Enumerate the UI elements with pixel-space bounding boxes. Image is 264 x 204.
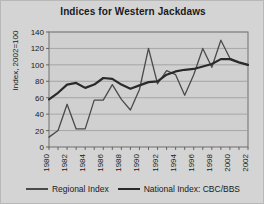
- legend-item-regional: Regional Index: [26, 184, 109, 194]
- legend-label-regional: Regional Index: [52, 184, 109, 194]
- y-tick-label: 120: [31, 44, 45, 53]
- y-tick-label: 20: [35, 127, 44, 136]
- x-axis-ticks: 1980198219841986198819901992199419961998…: [42, 147, 250, 172]
- x-tick-label: 1980: [42, 153, 51, 171]
- x-tick-label: 2000: [223, 153, 232, 171]
- x-tick-label: 2002: [241, 153, 250, 171]
- y-tick-label: 80: [35, 77, 44, 86]
- y-axis-ticks: 020406080100120140: [31, 28, 49, 152]
- x-tick-label: 1998: [205, 153, 214, 171]
- legend-swatch-national-icon: [118, 188, 140, 191]
- x-tick-label: 1990: [132, 153, 141, 171]
- chart-container: Indices for Western Jackdaws Index, 2002…: [0, 0, 264, 204]
- x-tick-label: 1982: [60, 153, 69, 171]
- x-tick-label: 1986: [96, 153, 105, 171]
- legend-label-national: National Index: CBC/BBS: [144, 184, 240, 194]
- x-tick-label: 1994: [169, 153, 178, 171]
- legend-swatch-regional-icon: [26, 188, 48, 190]
- x-tick-label: 1984: [78, 153, 87, 171]
- legend-item-national: National Index: CBC/BBS: [118, 184, 240, 194]
- y-tick-label: 140: [31, 28, 45, 37]
- y-tick-label: 0: [40, 143, 45, 152]
- plot-area: 020406080100120140 198019821984198619881…: [1, 1, 264, 204]
- y-tick-label: 100: [31, 61, 45, 70]
- chart-legend: Regional Index National Index: CBC/BBS: [1, 184, 264, 194]
- x-tick-label: 1992: [151, 153, 160, 171]
- y-tick-label: 40: [35, 110, 44, 119]
- x-tick-label: 1988: [114, 153, 123, 171]
- y-tick-label: 60: [35, 94, 44, 103]
- x-tick-label: 1996: [187, 153, 196, 171]
